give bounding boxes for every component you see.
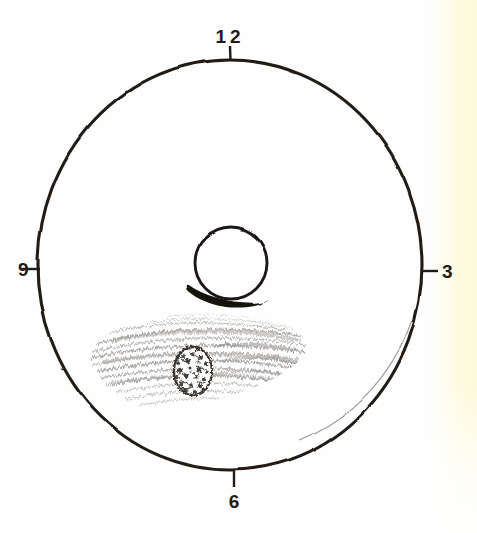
hour-label-6: 6 <box>229 491 240 512</box>
hour-label-12: 12 <box>215 26 244 47</box>
fundus-chart-canvas: 12 3 6 9 <box>0 0 477 533</box>
hour-tick-12 <box>230 46 231 61</box>
hour-ticks <box>22 46 438 487</box>
optic-disc-circle <box>195 227 267 299</box>
hour-label-9: 9 <box>18 259 29 280</box>
stippled-lesion-blob <box>174 347 212 395</box>
fundus-chart-page: 12 3 6 9 <box>0 0 477 533</box>
fundus-outline-circle <box>38 60 422 470</box>
hour-label-3: 3 <box>442 261 453 282</box>
